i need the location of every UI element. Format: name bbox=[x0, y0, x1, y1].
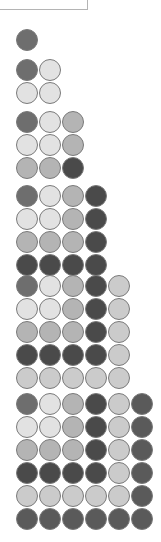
dot bbox=[62, 485, 84, 507]
dot bbox=[39, 508, 61, 530]
dot bbox=[108, 367, 130, 389]
square-block-1 bbox=[15, 28, 38, 51]
dot bbox=[62, 367, 84, 389]
dot bbox=[62, 231, 84, 253]
dot bbox=[85, 508, 107, 530]
dot bbox=[16, 485, 38, 507]
dot bbox=[108, 439, 130, 461]
dot bbox=[39, 439, 61, 461]
dot bbox=[131, 508, 153, 530]
dot bbox=[16, 157, 38, 179]
square-block-2 bbox=[15, 58, 61, 104]
dot bbox=[62, 134, 84, 156]
dot bbox=[108, 416, 130, 438]
dot bbox=[16, 344, 38, 366]
dot bbox=[39, 275, 61, 297]
dot bbox=[62, 111, 84, 133]
dot bbox=[39, 367, 61, 389]
dot bbox=[108, 508, 130, 530]
dot bbox=[16, 231, 38, 253]
dot bbox=[108, 298, 130, 320]
dot bbox=[39, 462, 61, 484]
dot bbox=[16, 208, 38, 230]
dot bbox=[16, 508, 38, 530]
dot bbox=[85, 298, 107, 320]
dot bbox=[39, 82, 61, 104]
dot bbox=[16, 462, 38, 484]
dot bbox=[108, 275, 130, 297]
dot bbox=[16, 59, 38, 81]
square-block-4 bbox=[15, 184, 107, 276]
dot bbox=[85, 275, 107, 297]
dot bbox=[131, 462, 153, 484]
dot bbox=[16, 82, 38, 104]
dot bbox=[85, 367, 107, 389]
dot bbox=[62, 393, 84, 415]
dot bbox=[62, 275, 84, 297]
dot bbox=[16, 134, 38, 156]
dot bbox=[39, 321, 61, 343]
dot bbox=[62, 416, 84, 438]
dot bbox=[39, 254, 61, 276]
dot bbox=[131, 439, 153, 461]
dot bbox=[85, 231, 107, 253]
dot bbox=[85, 208, 107, 230]
dot bbox=[39, 208, 61, 230]
dot bbox=[131, 416, 153, 438]
dot bbox=[16, 29, 38, 51]
square-block-5 bbox=[15, 274, 130, 389]
dot bbox=[62, 185, 84, 207]
dot bbox=[39, 485, 61, 507]
dot bbox=[85, 321, 107, 343]
dot bbox=[16, 367, 38, 389]
dot bbox=[16, 439, 38, 461]
dot bbox=[85, 393, 107, 415]
dot bbox=[62, 208, 84, 230]
dot bbox=[39, 344, 61, 366]
dot bbox=[16, 185, 38, 207]
dot bbox=[39, 416, 61, 438]
dot bbox=[108, 462, 130, 484]
dot bbox=[62, 321, 84, 343]
dot bbox=[62, 439, 84, 461]
dot bbox=[131, 485, 153, 507]
dot bbox=[39, 231, 61, 253]
dot bbox=[85, 254, 107, 276]
dot bbox=[62, 254, 84, 276]
dot bbox=[62, 157, 84, 179]
dot bbox=[16, 111, 38, 133]
dot bbox=[85, 485, 107, 507]
dot bbox=[16, 416, 38, 438]
dot bbox=[85, 344, 107, 366]
dot bbox=[62, 298, 84, 320]
square-block-3 bbox=[15, 110, 84, 179]
dot bbox=[85, 185, 107, 207]
dot bbox=[16, 254, 38, 276]
dot bbox=[16, 321, 38, 343]
dot bbox=[39, 111, 61, 133]
dot bbox=[108, 321, 130, 343]
dot bbox=[108, 485, 130, 507]
dot bbox=[85, 462, 107, 484]
dot bbox=[85, 416, 107, 438]
dot bbox=[62, 462, 84, 484]
square-block-6 bbox=[15, 392, 153, 530]
dot bbox=[16, 275, 38, 297]
dot bbox=[62, 344, 84, 366]
dot bbox=[108, 393, 130, 415]
dot bbox=[39, 185, 61, 207]
dot bbox=[39, 298, 61, 320]
dot bbox=[16, 298, 38, 320]
dot bbox=[16, 393, 38, 415]
dot bbox=[39, 393, 61, 415]
dot bbox=[39, 134, 61, 156]
dot bbox=[39, 59, 61, 81]
legend-box bbox=[0, 0, 88, 10]
dot bbox=[85, 439, 107, 461]
dot bbox=[108, 344, 130, 366]
dot bbox=[62, 508, 84, 530]
dot bbox=[39, 157, 61, 179]
dot bbox=[131, 393, 153, 415]
